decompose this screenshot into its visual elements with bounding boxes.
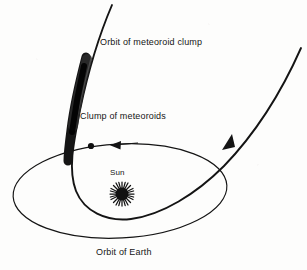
arrow-left-icon xyxy=(110,141,138,150)
label-clump-of-meteoroids: Clump of meteoroids xyxy=(80,111,166,121)
meteoroid-orbit-diagram: Orbit of meteoroid clump Clump of meteor… xyxy=(0,0,307,270)
label-orbit-of-meteoroid-clump: Orbit of meteoroid clump xyxy=(100,37,202,47)
earth-dot-icon xyxy=(88,143,94,149)
label-sun: Sun xyxy=(110,168,125,178)
sun-icon xyxy=(110,182,134,206)
arrow-up-right-icon xyxy=(222,134,235,150)
label-orbit-of-earth: Orbit of Earth xyxy=(96,247,152,257)
meteoroid-clump-blob xyxy=(68,57,87,161)
